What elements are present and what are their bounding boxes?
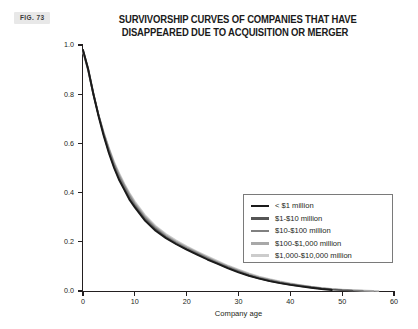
x-tick-label: 40 [278,298,302,305]
x-tick-label: 10 [123,298,147,305]
x-tick-label: 0 [71,298,95,305]
legend-item[interactable]: $1,000-$10,000 million [251,250,392,262]
y-tick [78,143,82,144]
chart-title: SURVIVORSHIP CURVES OF COMPANIES THAT HA… [119,13,352,39]
y-tick-label: 0.2 [52,238,74,245]
x-tick [82,292,83,296]
legend: < $1 million$1-$10 million$10-$100 milli… [243,194,393,263]
legend-swatch-icon [251,242,269,245]
legend-swatch-icon [251,230,269,233]
x-tick [393,292,394,296]
x-tick [134,292,135,296]
legend-item[interactable]: $100-$1,000 million [251,237,392,249]
y-tick-label: 0.4 [52,189,74,196]
legend-swatch-icon [251,217,269,220]
x-tick [342,292,343,296]
y-tick-label: 1.0 [52,41,74,48]
legend-label: $10-$100 million [275,227,331,235]
y-tick [78,290,82,291]
legend-item[interactable]: < $1 million [251,200,392,212]
x-tick-label: 60 [382,298,406,305]
legend-item[interactable]: $10-$100 million [251,225,392,237]
legend-label: $1,000-$10,000 million [275,252,352,260]
legend-label: $100-$1,000 million [275,240,341,248]
x-tick [290,292,291,296]
figure-badge: FIG. 73 [14,12,50,24]
y-tick [78,44,82,45]
x-tick-label: 50 [330,298,354,305]
chart-title-line-2: DISAPPEARED DUE TO ACQUISITION OR MERGER [119,26,352,39]
legend-label: < $1 million [275,202,314,210]
legend-swatch-icon [251,205,269,208]
x-axis-label: Company age [83,309,394,318]
y-tick-label: 0.0 [52,287,74,294]
y-tick [78,241,82,242]
chart-title-line-1: SURVIVORSHIP CURVES OF COMPANIES THAT HA… [119,13,352,26]
x-tick-label: 30 [227,298,251,305]
legend-label: $1-$10 million [275,215,322,223]
x-tick [238,292,239,296]
legend-swatch-icon [251,254,269,257]
y-tick [78,94,82,95]
x-tick [186,292,187,296]
x-tick-label: 20 [175,298,199,305]
y-tick-label: 0.6 [52,140,74,147]
legend-item[interactable]: $1-$10 million [251,212,392,224]
y-tick [78,192,82,193]
y-tick-label: 0.8 [52,91,74,98]
